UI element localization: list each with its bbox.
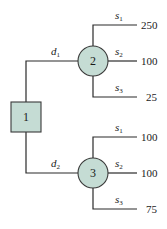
node3-s1-line xyxy=(93,137,137,158)
decision-label-d2: d2 xyxy=(51,157,61,171)
chance-node-3: 3 xyxy=(78,158,108,188)
decision-node-1: 1 xyxy=(11,102,41,132)
payoff-d2-s3: 75 xyxy=(146,203,158,215)
chance-node-2: 2 xyxy=(78,46,108,76)
branch-d1-line xyxy=(26,61,78,102)
payoff-d2-s1: 100 xyxy=(141,131,158,143)
node3-state-s2: s2 xyxy=(115,157,123,171)
node2-state-s1: s1 xyxy=(115,9,123,23)
chance-node-3-label: 3 xyxy=(90,166,96,180)
decision-tree-diagram: 1 2 3 d1 d2 s1 s2 s3 s1 s2 s3 250 100 25… xyxy=(0,0,167,229)
node2-state-s3: s3 xyxy=(115,81,123,95)
node2-state-s2: s2 xyxy=(115,45,123,59)
payoff-d1-s1: 250 xyxy=(141,19,158,31)
node3-state-s3: s3 xyxy=(115,193,123,207)
payoff-d1-s2: 100 xyxy=(141,55,158,67)
decision-label-d1: d1 xyxy=(51,45,61,59)
payoff-d1-s3: 25 xyxy=(146,91,158,103)
node3-state-s1: s1 xyxy=(115,121,123,135)
node2-s1-line xyxy=(93,25,137,46)
payoff-d2-s2: 100 xyxy=(141,167,158,179)
chance-node-2-label: 2 xyxy=(90,54,96,68)
decision-node-label: 1 xyxy=(23,110,29,124)
